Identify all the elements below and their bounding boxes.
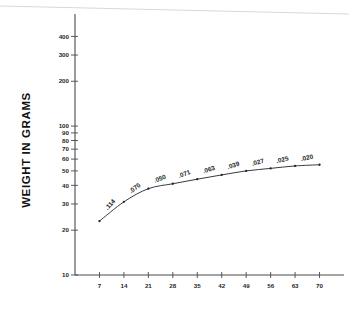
data-point-label: .050 [153,173,168,184]
y-tick-label: 10 [62,271,69,278]
data-point [123,201,125,203]
y-tick-label: 200 [59,77,70,84]
data-point [221,174,223,176]
y-tick-label: 100 [59,122,70,129]
data-point-label: .027 [251,157,265,167]
data-point [98,220,100,222]
y-axis-title: WEIGHT IN GRAMS [20,92,32,208]
x-tick-label: 63 [292,282,299,289]
x-tick-label: 35 [194,282,201,289]
data-point [147,188,149,190]
x-tick-label: 56 [267,282,274,289]
y-tick-label: 90 [62,129,69,136]
data-point [318,164,320,166]
x-tick-label: 21 [145,282,152,289]
y-tick-label: 400 [59,33,70,40]
point-label-group: .114.070.050.071.063.039.027.025.020 [103,153,314,211]
x-tick-label: 7 [98,282,102,289]
y-tick-label: 80 [62,137,69,144]
y-tick-label: 50 [62,167,69,174]
x-tick-label: 28 [169,282,176,289]
data-point [245,170,247,172]
data-point [294,165,296,167]
y-tick-label: 70 [62,145,69,152]
x-tick-label: 14 [120,282,127,289]
x-tick-label: 42 [218,282,225,289]
data-point-label: .039 [226,160,240,171]
growth-chart: 102030405060708090100200300400 714212835… [0,0,349,320]
chart-canvas: 102030405060708090100200300400 714212835… [0,0,349,320]
y-tick-label: 30 [62,200,69,207]
x-tick-label: 49 [243,282,250,289]
data-point-label: .071 [177,168,191,179]
data-point [172,183,174,185]
y-tick-label: 40 [62,182,69,189]
data-point [196,178,198,180]
scan-edge-artifact [0,6,349,14]
y-tick-label: 60 [62,155,69,162]
y-tick-label: 300 [59,51,70,58]
data-point-label: .025 [275,154,289,164]
data-point-label: .063 [202,164,216,175]
data-point-label: .020 [300,153,314,162]
data-point [269,167,271,169]
y-tick-label: 20 [62,226,69,233]
x-tick-label: 70 [316,282,323,289]
